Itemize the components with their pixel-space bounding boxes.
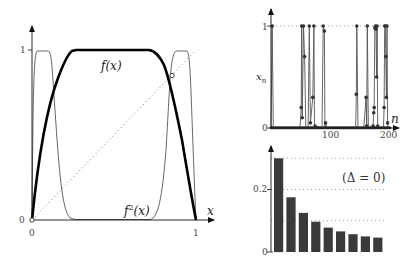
ts-point <box>374 27 378 31</box>
ts-point <box>372 111 376 115</box>
map-xtick-label-0: 0 <box>29 228 35 238</box>
bar-3 <box>299 213 308 252</box>
ts-point <box>384 55 388 59</box>
bar-6 <box>336 231 345 252</box>
fixed-point-interior <box>170 73 174 77</box>
ts-point <box>371 124 375 128</box>
ts-xtick-label-200: 200 <box>380 130 397 140</box>
ts-point <box>386 121 390 125</box>
ts-point <box>299 106 303 110</box>
ts-y-axis-label: xn <box>256 71 267 85</box>
map-plot: 0 1 0 1 x f(x) f2(x) <box>19 26 214 238</box>
ts-point <box>382 106 386 110</box>
ts-point <box>303 55 307 59</box>
ts-point <box>302 24 306 28</box>
map-x-axis-label: x <box>207 204 214 218</box>
bar-2 <box>286 197 295 252</box>
ts-point <box>311 96 315 100</box>
bar-ytick-label-0: 0 <box>262 247 268 257</box>
f2-label-arg: (x) <box>134 204 150 218</box>
fixed-point-origin <box>30 218 34 222</box>
ts-point <box>312 24 316 28</box>
ts-point <box>364 96 368 100</box>
map-xtick-label-1: 1 <box>193 228 199 238</box>
map-ytick-label-0: 0 <box>19 215 25 225</box>
ts-point <box>385 96 389 100</box>
bar-7 <box>348 234 357 252</box>
bar-8 <box>361 236 370 252</box>
ts-point <box>355 24 359 28</box>
ts-ytick-label-0: 0 <box>262 123 268 133</box>
ts-point <box>365 124 369 128</box>
timeseries-plot: 1 0 100 200 n xn <box>256 9 399 140</box>
ts-point <box>323 29 327 33</box>
ts-point <box>324 121 328 125</box>
ts-point <box>309 121 313 125</box>
ts-xtick-label-100: 100 <box>322 130 339 140</box>
bar-ytick-label-0.2: 0.2 <box>253 184 267 194</box>
figure: 0 1 0 1 x f(x) f2(x) 1 0 100 200 n xn 0 … <box>0 0 414 265</box>
ts-point <box>375 24 379 28</box>
distribution-plot: 0 0.2 (Δ = 0) <box>253 146 387 257</box>
map-ytick-label-1: 1 <box>20 45 26 55</box>
bar-1 <box>274 158 283 252</box>
ts-series <box>270 24 392 129</box>
delta-annotation: (Δ = 0) <box>342 171 385 185</box>
ts-y-label-sub: n <box>262 77 267 85</box>
ts-x-axis-label: n <box>391 112 399 126</box>
f-label: f(x) <box>100 59 122 73</box>
bar-9 <box>373 238 382 252</box>
ts-point <box>376 124 380 128</box>
ts-ytick-label-1: 1 <box>262 22 268 32</box>
ts-point <box>375 75 379 79</box>
ts-point <box>372 106 376 110</box>
bar-4 <box>311 222 320 252</box>
f2-label: f2(x) <box>123 203 150 218</box>
ts-point <box>301 116 305 120</box>
ts-point <box>308 24 312 28</box>
ts-point <box>366 24 370 28</box>
ts-point <box>321 24 325 28</box>
bar-5 <box>324 228 333 252</box>
ts-point <box>385 24 389 28</box>
ts-point <box>355 93 359 97</box>
ts-point <box>313 124 317 128</box>
